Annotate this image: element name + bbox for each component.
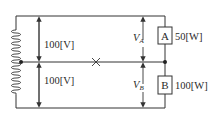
center-tap-dot bbox=[19, 60, 23, 64]
load-b-power: 100[W] bbox=[175, 80, 208, 91]
load-a-label: A bbox=[161, 30, 169, 42]
upper-source-voltage: 100[V] bbox=[44, 39, 74, 50]
junction-dot bbox=[163, 60, 167, 64]
load-a-power: 50[W] bbox=[175, 31, 202, 42]
load-b-label: B bbox=[161, 79, 168, 91]
circuit-diagram: A B 50[W] 100[W] 100[V] 100[V] VA VB bbox=[0, 0, 220, 116]
lower-source-voltage: 100[V] bbox=[44, 75, 74, 86]
